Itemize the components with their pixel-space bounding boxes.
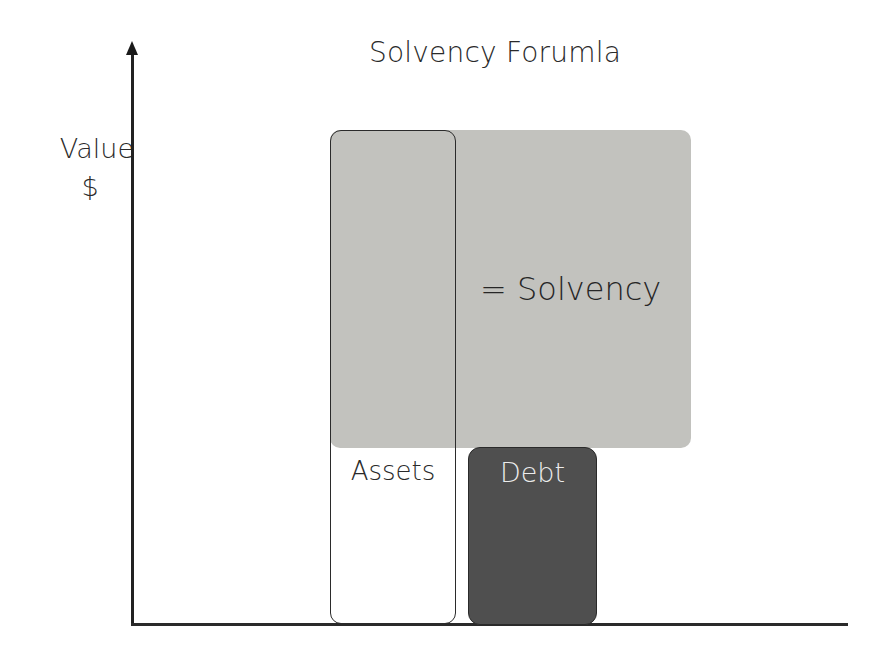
diagram-title: Solvency Forumla: [330, 36, 660, 69]
arrow-up-icon: [126, 41, 138, 55]
y-axis-label-text: Value: [60, 133, 134, 164]
assets-bar: [330, 130, 456, 624]
y-axis-unit: $: [30, 168, 134, 206]
y-axis-line: [131, 50, 134, 626]
debt-label: Debt: [468, 457, 597, 488]
solvency-label: = Solvency: [480, 270, 661, 308]
assets-label: Assets: [333, 456, 453, 486]
y-axis-label: Value $: [30, 130, 134, 206]
